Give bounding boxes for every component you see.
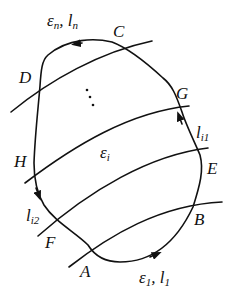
diagram-canvas: C D G H E B F A εn, ln εi li1 li2 ε1, l1 [0, 0, 227, 289]
label-E: E [206, 159, 218, 178]
arrow-top-icon [76, 43, 82, 44]
label-C: C [113, 22, 125, 41]
label-G: G [176, 84, 188, 103]
closed-contour [34, 40, 202, 262]
label-eps-i: εi [100, 143, 110, 163]
label-A: A [79, 262, 91, 281]
label-F: F [44, 233, 56, 252]
label-eps-1-l-1: ε1, l1 [139, 268, 170, 288]
label-B: B [194, 210, 205, 229]
ellipsis-dot-1 [86, 89, 89, 92]
ellipsis-dot-2 [89, 96, 92, 99]
label-l-i2: li2 [26, 206, 40, 226]
label-l-i1: li1 [196, 123, 209, 143]
label-D: D [18, 68, 32, 87]
level-curve-i-lower [38, 148, 208, 236]
ellipsis-dot-3 [92, 104, 95, 107]
arrow-right-icon [179, 116, 182, 124]
level-curve-i-upper [25, 106, 189, 183]
label-H: H [13, 152, 28, 171]
label-eps-n-l-n: εn, ln [47, 11, 78, 31]
